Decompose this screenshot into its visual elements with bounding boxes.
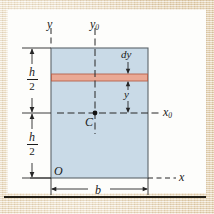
label-strip-distance-y: y (124, 89, 129, 100)
fraction-denominator: 2 (29, 145, 35, 157)
fraction-denominator: 2 (29, 80, 35, 92)
label-width-b: b (95, 184, 101, 196)
label-origin: O (54, 165, 63, 177)
label-axis-y: y (47, 18, 52, 30)
differential-strip (52, 74, 148, 81)
label-strip-thickness-dy: dy (121, 49, 131, 60)
label-lower-half-height: h 2 (22, 131, 42, 157)
fraction-numerator: h (29, 131, 35, 144)
label-axis-x: x (179, 171, 184, 183)
fraction-numerator: h (29, 66, 35, 79)
label-axis-y0: y0 (90, 18, 99, 32)
label-centroid: C (85, 116, 93, 128)
label-axis-x0: x0 (163, 106, 172, 120)
centroid-dot (93, 111, 98, 116)
label-upper-half-height: h 2 (22, 66, 42, 92)
bottom-horizontal-rule (4, 196, 206, 198)
